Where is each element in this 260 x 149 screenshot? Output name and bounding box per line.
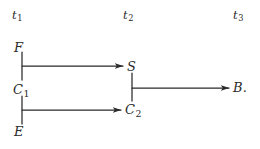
node-label-s-text: S [127, 59, 136, 74]
time-label-t1-sub: 1 [17, 13, 22, 23]
node-label-c1-text: C [13, 82, 23, 97]
node-label-s: S [127, 60, 136, 73]
node-label-f: F [14, 41, 23, 54]
time-label-t2-sub: 2 [128, 13, 133, 23]
time-label-t2: t2 [123, 10, 134, 23]
node-label-b-text: B. [233, 80, 247, 95]
node-label-c2: C2 [125, 103, 142, 118]
time-label-t3-sub: 3 [238, 13, 243, 23]
time-label-t3: t3 [233, 10, 244, 23]
node-label-c2-sub: 2 [136, 108, 142, 119]
time-label-t1: t1 [12, 10, 23, 23]
node-label-c2-text: C [125, 102, 135, 117]
diagram-canvas: t1 t2 t3 F C1 E S C2 B. [0, 0, 260, 149]
node-label-f-text: F [14, 40, 23, 55]
node-label-b: B. [233, 81, 247, 94]
node-label-c1-sub: 1 [24, 88, 30, 99]
node-label-e: E [14, 125, 24, 138]
node-label-e-text: E [14, 124, 24, 139]
node-label-c1: C1 [13, 83, 30, 98]
